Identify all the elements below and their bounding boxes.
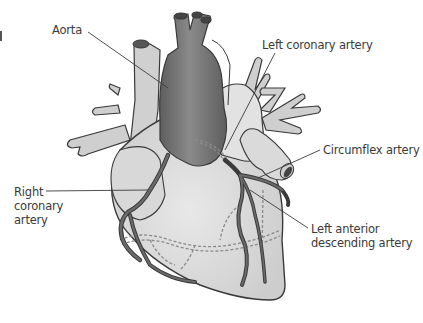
label-left-anterior-descending-artery: Left anterior descending artery [311, 222, 421, 250]
label-right-coronary-artery: Right coronary artery [14, 185, 74, 227]
left-pulmonary-veins [67, 84, 130, 156]
edge-mark [0, 31, 2, 41]
label-aorta: Aorta [52, 23, 82, 37]
heart-diagram: Aorta Left coronary artery Circumflex ar… [0, 0, 423, 323]
aorta [160, 12, 227, 166]
label-left-coronary-artery: Left coronary artery [262, 38, 373, 52]
label-circumflex-artery: Circumflex artery [323, 143, 420, 157]
